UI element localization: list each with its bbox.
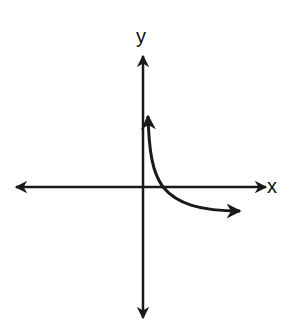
- x-axis-label: x: [267, 176, 277, 196]
- coordinate-plane: [0, 0, 307, 320]
- function-curve: [148, 116, 240, 211]
- y-axis-label: y: [136, 26, 146, 46]
